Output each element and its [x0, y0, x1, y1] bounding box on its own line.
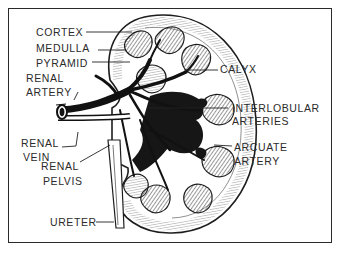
label-medulla: MEDULLA — [36, 42, 90, 54]
label-interlobular-line1: INTERLOBULAR — [232, 102, 320, 114]
label-interlobular-line2: ARTERIES — [232, 115, 289, 127]
label-renal-artery-line1: RENAL — [26, 72, 64, 84]
label-calyx: CALYX — [220, 63, 257, 75]
label-renal-pelvis-line2: PELVIS — [43, 175, 83, 187]
label-pyramid: PYRAMID — [36, 57, 88, 69]
label-arcuate-line1: ARCUATE — [234, 141, 288, 153]
label-renal-vein-line1: RENAL — [21, 137, 59, 149]
label-ureter: URETER — [50, 216, 97, 228]
label-cortex: CORTEX — [36, 26, 83, 38]
label-renal-artery-line2: ARTERY — [26, 86, 72, 98]
label-renal-pelvis-line1: RENAL — [41, 160, 79, 172]
label-arcuate-line2: ARTERY — [234, 155, 280, 167]
